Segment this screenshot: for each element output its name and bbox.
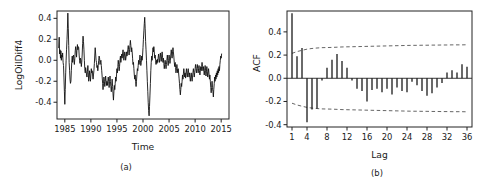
panel-b-x-ticklabel: 28 — [422, 132, 433, 142]
panel-b-acf: -0.4-0.20.00.20.414812162024283236LagACF… — [244, 0, 487, 186]
panel-a-x-ticklabel: 1995 — [106, 124, 127, 134]
panel-b-y-ticklabel: -0.4 — [265, 120, 281, 130]
panel-a-y-ticklabel: 0.4 — [38, 13, 51, 23]
panel-b-x-ticklabel: 12 — [342, 132, 353, 142]
panel-b-xlabel: Lag — [371, 149, 388, 160]
panel-b-x-ticklabel: 36 — [462, 132, 473, 142]
panel-b-x-ticklabel: 20 — [382, 132, 393, 142]
panel-a-series-line — [59, 13, 222, 116]
panel-a-time-series: -0.4-0.20.00.20.419851990199520002005201… — [0, 0, 244, 186]
panel-b-x-ticklabel: 24 — [402, 132, 413, 142]
panel-b-confidence-upper — [292, 45, 467, 54]
panel-b-y-ticklabel: 0.4 — [268, 27, 281, 37]
panel-a-y-ticklabel: 0.2 — [38, 34, 51, 44]
panel-b-x-ticklabel: 32 — [442, 132, 453, 142]
panel-a-y-ticklabel: 0.0 — [38, 55, 51, 65]
panel-b-ylabel: ACF — [251, 54, 262, 72]
panel-b-plot-frame — [287, 11, 472, 127]
panel-a-x-ticklabel: 2015 — [211, 124, 232, 134]
panel-b-svg: -0.4-0.20.00.20.414812162024283236LagACF… — [244, 0, 487, 186]
figure-two-panel: -0.4-0.20.00.20.419851990199520002005201… — [0, 0, 487, 186]
panel-a-xlabel: Time — [131, 141, 155, 152]
panel-a-ylabel: LogOilDiff4 — [13, 40, 24, 91]
panel-a-y-ticklabel: -0.4 — [35, 97, 51, 107]
panel-b-y-ticklabel: 0.2 — [268, 50, 281, 60]
panel-b-x-ticklabel: 4 — [304, 132, 309, 142]
panel-a-x-ticklabel: 2005 — [158, 124, 179, 134]
panel-b-caption: (b) — [371, 168, 383, 178]
panel-b-x-ticklabel: 1 — [289, 132, 294, 142]
panel-a-svg: -0.4-0.20.00.20.419851990199520002005201… — [0, 0, 244, 186]
panel-b-confidence-lower — [292, 103, 467, 112]
panel-a-y-ticklabel: -0.2 — [35, 76, 51, 86]
panel-a-x-ticklabel: 2010 — [184, 124, 205, 134]
panel-a-caption: (a) — [120, 162, 132, 172]
panel-b-x-ticklabel: 16 — [362, 132, 373, 142]
panel-b-x-ticklabel: 8 — [324, 132, 329, 142]
panel-b-y-ticklabel: -0.2 — [265, 96, 281, 106]
panel-a-plot-frame — [57, 11, 229, 119]
panel-b-y-ticklabel: 0.0 — [268, 73, 281, 83]
panel-a-x-ticklabel: 1985 — [54, 124, 75, 134]
panel-a-x-ticklabel: 1990 — [80, 124, 101, 134]
panel-a-x-ticklabel: 2000 — [132, 124, 153, 134]
